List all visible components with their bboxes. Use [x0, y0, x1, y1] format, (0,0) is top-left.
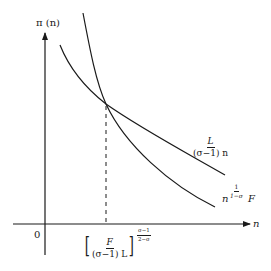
origin-label: 0: [34, 230, 40, 240]
equilibrium-denominator: (σ−1) L: [92, 249, 127, 259]
equilibrium-numerator: F: [106, 238, 114, 249]
diagram-lines: [0, 0, 271, 271]
bracket-left: [: [85, 235, 90, 257]
equilibrium-fraction: F (σ−1) L: [92, 238, 127, 259]
curve-steep-label: n: [222, 194, 228, 204]
equilibrium-exp-denominator: 2−σ: [138, 236, 150, 243]
curve-flat-label: L (σ−1) n: [193, 137, 228, 158]
curve-steep-label-suffix: F: [248, 194, 255, 204]
equilibrium-exponent: σ−1 2−σ: [137, 228, 151, 242]
curve-steep: [83, 13, 215, 207]
curve-steep-label-exponent: 1 1−σ: [230, 184, 243, 199]
equilibrium-exp-numerator: σ−1: [137, 228, 151, 236]
bracket-right: ]: [129, 235, 134, 257]
curve-steep-exp-numerator: 1: [234, 184, 240, 192]
y-axis-label: π (n): [36, 18, 60, 28]
diagram-canvas: π (n) n 0 L (σ−1) n n 1 1−σ F [ F (σ−1) …: [0, 0, 271, 271]
curve-flat-label-numerator: L: [207, 137, 215, 148]
x-axis-label: n: [253, 219, 259, 229]
curve-steep-label-base: n: [222, 193, 228, 204]
curve-flat-label-denominator: (σ−1) n: [193, 148, 228, 158]
curve-steep-exp-denominator: 1−σ: [230, 192, 243, 199]
